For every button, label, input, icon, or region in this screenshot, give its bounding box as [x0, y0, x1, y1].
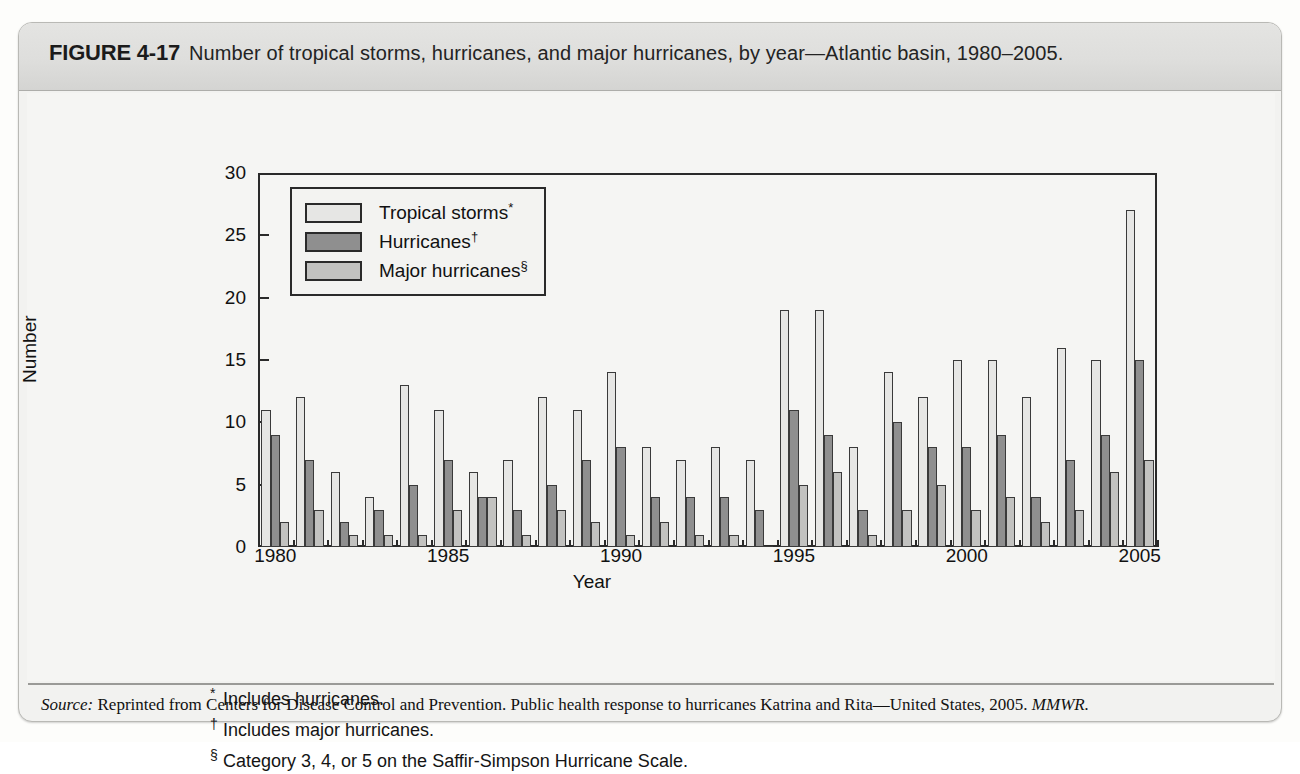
- y-axis-tick-label: 30: [200, 162, 246, 184]
- legend-item[interactable]: Tropical storms*: [305, 198, 528, 227]
- legend-label: Major hurricanes§: [379, 258, 528, 282]
- bar: [988, 360, 997, 547]
- bar: [547, 485, 556, 547]
- x-axis-tick-label: 2000: [927, 545, 1007, 567]
- bar: [616, 447, 625, 547]
- x-axis-tick: [1088, 540, 1090, 547]
- bar: [296, 397, 305, 547]
- footnote-marker: †: [210, 712, 223, 737]
- bar: [513, 510, 522, 547]
- x-axis-tick-label: 1990: [581, 545, 661, 567]
- bar: [651, 497, 660, 547]
- bar: [1110, 472, 1119, 547]
- bar: [1126, 210, 1135, 547]
- bar: [444, 460, 453, 547]
- bar: [626, 535, 635, 547]
- y-axis-tick-label: 15: [200, 349, 246, 371]
- x-axis-tick: [535, 540, 537, 547]
- x-axis-tick: [500, 540, 502, 547]
- bar: [824, 435, 833, 547]
- x-axis-tick: [362, 540, 364, 547]
- footnote-text: Includes major hurricanes.: [223, 720, 434, 740]
- footnote-item: †Includes major hurricanes.: [210, 712, 688, 743]
- bar: [928, 447, 937, 547]
- legend-footnote-marker: †: [471, 229, 478, 244]
- bar: [522, 535, 531, 547]
- legend-swatch: [305, 261, 362, 281]
- bar: [365, 497, 374, 547]
- y-axis-title: Number: [19, 315, 41, 383]
- bar: [271, 435, 280, 547]
- bar: [720, 497, 729, 547]
- x-axis-tick-label: 2005: [1100, 545, 1180, 567]
- bar: [997, 435, 1006, 547]
- footnote-item: §Category 3, 4, or 5 on the Saffir-Simps…: [210, 743, 688, 774]
- bar: [478, 497, 487, 547]
- bar: [815, 310, 824, 547]
- x-axis-tick-label: 1980: [235, 545, 315, 567]
- bar: [1101, 435, 1110, 547]
- bar: [953, 360, 962, 547]
- bar: [711, 447, 720, 547]
- bar: [799, 485, 808, 547]
- bar: [607, 372, 616, 547]
- bar: [591, 522, 600, 547]
- x-axis-tick: [569, 540, 571, 547]
- bar: [849, 447, 858, 547]
- bar: [340, 522, 349, 547]
- bar: [884, 372, 893, 547]
- bar: [487, 497, 496, 547]
- bar: [400, 385, 409, 547]
- source-prefix: Source:: [41, 695, 93, 714]
- bar: [789, 410, 798, 547]
- figure-caption: Number of tropical storms, hurricanes, a…: [189, 42, 1063, 64]
- legend-label: Tropical storms*: [379, 200, 513, 224]
- bar: [331, 472, 340, 547]
- x-axis-tick: [1019, 540, 1021, 547]
- y-axis-tick-label: 10: [200, 411, 246, 433]
- bar: [314, 510, 323, 547]
- bar: [962, 447, 971, 547]
- x-axis-title: Year: [27, 571, 1157, 593]
- bar: [937, 485, 946, 547]
- bar: [374, 510, 383, 547]
- bar: [1041, 522, 1050, 547]
- x-axis-tick-label: 1995: [754, 545, 834, 567]
- bar: [746, 460, 755, 547]
- legend-swatch: [305, 232, 362, 252]
- legend-item[interactable]: Hurricanes†: [305, 227, 528, 256]
- figure-title: FIGURE 4-17Number of tropical storms, hu…: [49, 40, 1063, 66]
- bar: [918, 397, 927, 547]
- y-axis-tick-label: 5: [200, 474, 246, 496]
- bar: [642, 447, 651, 547]
- footnote-text: Category 3, 4, or 5 on the Saffir-Simpso…: [223, 751, 688, 771]
- bar: [971, 510, 980, 547]
- bar: [1066, 460, 1075, 547]
- bar: [1135, 360, 1144, 547]
- bar: [1075, 510, 1084, 547]
- bar: [582, 460, 591, 547]
- bar: [893, 422, 902, 547]
- bar: [764, 546, 773, 547]
- bar: [305, 460, 314, 547]
- bar: [1031, 497, 1040, 547]
- source-divider: [28, 683, 1274, 685]
- bar: [780, 310, 789, 547]
- bar: [409, 485, 418, 547]
- bar: [1057, 348, 1066, 547]
- bar: [902, 510, 911, 547]
- x-axis-tick: [742, 540, 744, 547]
- footnote-marker: §: [210, 743, 223, 768]
- bar: [453, 510, 462, 547]
- bar: [755, 510, 764, 547]
- bar: [1006, 497, 1015, 547]
- source-text: Reprinted from Centers for Disease Contr…: [98, 695, 1028, 714]
- x-axis-tick: [396, 540, 398, 547]
- bar: [1091, 360, 1100, 547]
- bar: [384, 535, 393, 547]
- bar: [503, 460, 512, 547]
- legend-item[interactable]: Major hurricanes§: [305, 256, 528, 285]
- bar: [280, 522, 289, 547]
- bar: [418, 535, 427, 547]
